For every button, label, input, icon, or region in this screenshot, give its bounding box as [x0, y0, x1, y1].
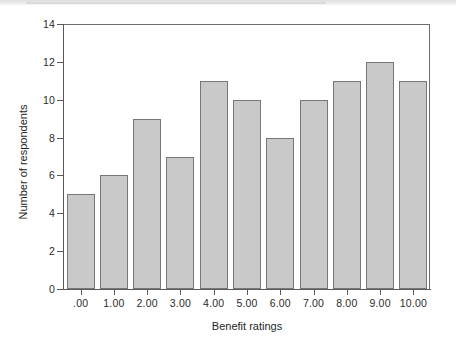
bar: [200, 81, 228, 289]
bar: [133, 119, 161, 289]
y-axis-line: [63, 24, 64, 290]
y-axis-title: Number of respondents: [17, 62, 29, 262]
y-axis-tick-label: 4: [3, 207, 55, 219]
y-axis-tick-label: 14: [3, 18, 55, 30]
x-axis-tick: [247, 290, 248, 295]
bar: [366, 62, 394, 289]
x-axis-tick: [81, 290, 82, 295]
y-axis-tick: [57, 251, 63, 252]
bar: [67, 194, 95, 289]
y-axis-tick: [57, 62, 63, 63]
y-axis-tick-label: 0: [3, 283, 55, 295]
bar: [300, 100, 328, 289]
bar: [233, 100, 261, 289]
x-axis-tick: [114, 290, 115, 295]
scan-artifact-line: [26, 2, 326, 4]
y-axis-tick: [57, 175, 63, 176]
bar: [100, 175, 128, 289]
y-axis-tick: [57, 100, 63, 101]
bar: [266, 138, 294, 289]
x-axis-tick: [180, 290, 181, 295]
x-axis-tick: [347, 290, 348, 295]
x-axis-tick: [314, 290, 315, 295]
y-axis-tick-label: 10: [3, 94, 55, 106]
x-axis-tick: [380, 290, 381, 295]
y-axis-tick-label: 8: [3, 132, 55, 144]
x-axis-tick-label: 10.00: [388, 297, 438, 309]
y-axis-tick: [57, 213, 63, 214]
y-axis-tick-label: 6: [3, 169, 55, 181]
y-axis-tick: [57, 289, 63, 290]
y-axis-tick: [57, 24, 63, 25]
x-axis-tick: [214, 290, 215, 295]
x-axis-tick: [147, 290, 148, 295]
bar-chart-figure: 02468101214 .001.002.003.004.005.006.007…: [0, 0, 456, 345]
bar: [399, 81, 427, 289]
x-axis-tick: [280, 290, 281, 295]
x-axis-title: Benefit ratings: [64, 320, 430, 332]
y-axis-tick-label: 2: [3, 245, 55, 257]
bar: [166, 157, 194, 290]
y-axis-tick: [57, 138, 63, 139]
y-axis-tick-label: 12: [3, 56, 55, 68]
bar: [333, 81, 361, 289]
x-axis-tick: [413, 290, 414, 295]
